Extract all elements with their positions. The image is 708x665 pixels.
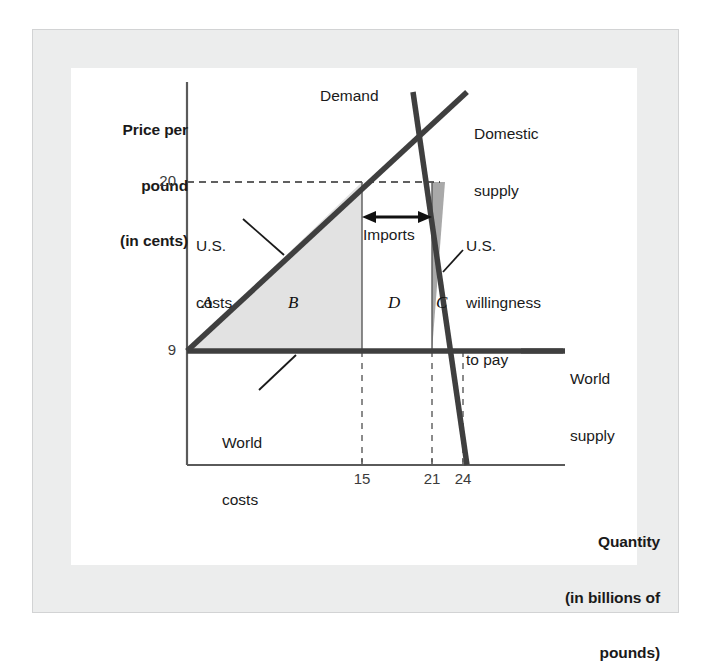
region-label-b: B xyxy=(288,293,298,313)
y-tick-label-9: 9 xyxy=(148,341,176,358)
world-supply-label-line1: World xyxy=(570,369,615,388)
us-costs-leader-line xyxy=(243,219,284,255)
us-willingness-label-line1: U.S. xyxy=(466,236,541,255)
us-costs-label-line1: U.S. xyxy=(196,236,232,255)
y-axis-title-line1: Price per xyxy=(88,121,188,140)
world-costs-label: World costs xyxy=(222,395,262,528)
world-supply-label-line2: supply xyxy=(570,426,615,445)
imports-arrow xyxy=(362,211,432,223)
region-label-d: D xyxy=(388,293,400,313)
domestic-supply-label-line1: Domestic xyxy=(474,124,539,143)
x-axis-title-line2: (in billions of xyxy=(470,589,660,608)
demand-curve-label: Demand xyxy=(320,86,379,105)
us-willingness-to-pay-label: U.S. willingness to pay xyxy=(466,198,541,388)
world-costs-leader-line xyxy=(259,355,296,390)
x-tick-label-15: 15 xyxy=(348,470,376,487)
region-label-a: A xyxy=(202,293,212,313)
x-axis-title-line1: Quantity xyxy=(470,533,660,552)
us-willingness-label-line2: willingness xyxy=(466,293,541,312)
x-tick-label-21: 21 xyxy=(418,470,446,487)
world-costs-label-line1: World xyxy=(222,433,262,452)
region-label-c: C xyxy=(436,293,447,313)
y-axis-title-line3: (in cents) xyxy=(88,232,188,251)
world-costs-label-line2: costs xyxy=(222,490,262,509)
x-tick-label-24: 24 xyxy=(449,470,477,487)
world-supply-label: World supply xyxy=(570,331,615,464)
y-tick-label-20: 20 xyxy=(148,172,176,189)
x-axis-title-line3: pounds) xyxy=(470,644,660,663)
demand-curve xyxy=(413,92,467,465)
imports-label: Imports xyxy=(363,226,415,244)
us-willingness-label-line3: to pay xyxy=(466,350,541,369)
x-axis-title: Quantity (in billions of pounds) xyxy=(470,496,660,665)
us-willingness-leader-line xyxy=(443,250,463,272)
